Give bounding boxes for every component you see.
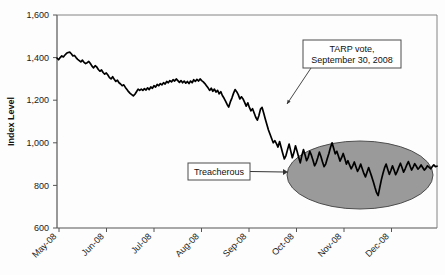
y-axis-title: Index Level [6, 97, 16, 146]
y-tick-label: 1,200 [26, 95, 49, 105]
y-tick-label: 800 [34, 181, 49, 191]
treacherous-highlight-ellipse [287, 141, 433, 209]
tarp-annotation-line1: TARP vote, [329, 44, 374, 54]
y-tick-label: 1,600 [26, 10, 49, 20]
chart-container: 6008001,0001,2001,4001,600 May-08Jun-08J… [0, 0, 445, 275]
treacherous-annotation-label: Treacherous [194, 167, 245, 177]
y-tick-label: 1,400 [26, 53, 49, 63]
index-level-line-chart: 6008001,0001,2001,4001,600 May-08Jun-08J… [0, 0, 445, 275]
tarp-vote-annotation[interactable]: TARP vote, September 30, 2008 [303, 40, 401, 68]
treacherous-annotation[interactable]: Treacherous [188, 163, 250, 180]
y-tick-label: 600 [34, 223, 49, 233]
tarp-annotation-line2: September 30, 2008 [311, 55, 393, 65]
y-tick-label: 1,000 [26, 138, 49, 148]
